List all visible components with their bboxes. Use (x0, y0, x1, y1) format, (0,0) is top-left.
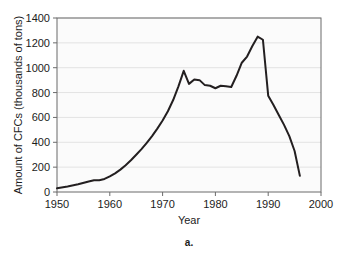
y-axis-title: Amount of CFCs (thousands of tons) (12, 16, 24, 195)
y-tick-label-400: 400 (32, 136, 50, 148)
x-axis-title: Year (178, 214, 201, 226)
y-tick-label-600: 600 (32, 111, 50, 123)
y-tick-label-800: 800 (32, 87, 50, 99)
cfc-line-chart: 0200400600800100012001400 19501960197019… (0, 0, 350, 255)
x-tick-label-1960: 1960 (98, 198, 122, 210)
y-axis: 0200400600800100012001400 (26, 12, 57, 198)
x-tick-label-2000: 2000 (309, 198, 333, 210)
x-tick-label-1950: 1950 (45, 198, 69, 210)
x-tick-label-1980: 1980 (203, 198, 227, 210)
y-tick-label-1400: 1400 (26, 12, 50, 24)
panel-caption: a. (185, 237, 194, 248)
x-axis: 195019601970198019902000 (45, 192, 333, 210)
plot-background (57, 18, 321, 192)
y-tick-label-0: 0 (44, 186, 50, 198)
y-tick-label-1000: 1000 (26, 62, 50, 74)
y-tick-label-1200: 1200 (26, 37, 50, 49)
x-tick-label-1970: 1970 (150, 198, 174, 210)
x-tick-label-1990: 1990 (256, 198, 280, 210)
figure-container: 0200400600800100012001400 19501960197019… (0, 0, 350, 255)
y-tick-label-200: 200 (32, 161, 50, 173)
